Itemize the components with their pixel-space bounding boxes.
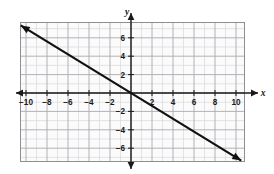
y-tick-label: −2 [116,107,126,116]
x-tick-label: −4 [84,98,94,107]
x-tick-label: 8 [213,98,218,107]
x-tick-label: −2 [105,98,115,107]
y-tick-label: −4 [116,126,126,135]
x-tick-label: −10 [19,98,33,107]
x-tick-label: −6 [63,98,73,107]
x-axis-label: x [260,88,266,98]
y-tick-label: −6 [116,144,126,153]
x-tick-label: 6 [192,98,197,107]
y-tick-label: 6 [120,34,125,43]
y-axis-label: y [124,7,130,17]
x-tick-label: 10 [231,98,241,107]
x-tick-label: −8 [42,98,52,107]
y-tick-label: 4 [120,52,125,61]
x-tick-label: 4 [171,98,176,107]
coordinate-plane-figure: −10−8−6−4−2246810 642−2−4−6 x y [0,0,274,174]
plot-area-background [21,23,245,162]
y-tick-label: 2 [120,71,125,80]
graph-canvas: −10−8−6−4−2246810 642−2−4−6 x y [0,0,274,174]
